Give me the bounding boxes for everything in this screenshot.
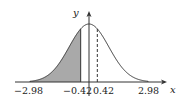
plot-area: [15, 11, 167, 96]
tick-label-0-42: 0.42: [93, 85, 114, 96]
tick-label-neg-0-42: −0.42: [63, 85, 92, 96]
shaded-area: [30, 29, 81, 82]
tick-label-2-98: 2.98: [138, 85, 159, 96]
x-axis-label: x: [170, 84, 176, 95]
normal-curve-chart: y x −2.98 −0.42 0.42 2.98: [0, 0, 182, 102]
y-axis-label: y: [72, 7, 79, 18]
tick-label-neg-2-98: −2.98: [14, 85, 43, 96]
